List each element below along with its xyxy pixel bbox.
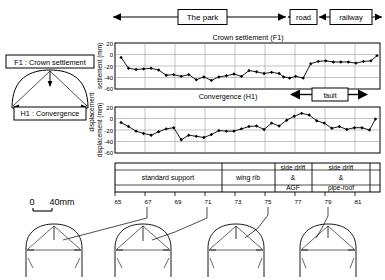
support-segment-label-3: pipe-roof — [328, 184, 354, 192]
x-axis-tick-label: 73 — [235, 198, 242, 205]
chart-convergence-ytick: -20 — [104, 128, 113, 134]
support-segment-label: side drift — [281, 164, 306, 171]
zone-railway-label: railway — [339, 13, 363, 22]
chart-convergence-ylabel: displacement (mm) — [96, 103, 104, 157]
chart-crown-title: Crown settlement (F1) — [212, 33, 283, 42]
x-axis-tick-label: 81 — [355, 198, 362, 205]
x-axis-tick-label: 69 — [175, 198, 182, 205]
support-segment-label-2: & — [291, 174, 296, 181]
support-segment-label: wing rib — [235, 174, 260, 182]
chart-crown-ytick: -40 — [104, 75, 113, 81]
fault-label: fault — [323, 92, 336, 99]
x-axis-tick-label: 79 — [325, 198, 332, 205]
chart-convergence-ytick: -60 — [104, 150, 113, 156]
scale-bar-length-label: 40mm — [49, 197, 74, 207]
chart-convergence-ytick: -40 — [104, 139, 113, 145]
legend-crown-label: F1 : Crown settlement — [14, 58, 85, 67]
chart-convergence-title: Convergence (H1) — [199, 92, 258, 101]
zone-road-label: road — [296, 13, 311, 22]
x-axis-tick-label: 67 — [145, 198, 152, 205]
figure-root: The park road railway F1 : Crown settlem… — [0, 0, 385, 280]
legend-convergence-label: H1 : Convergence — [21, 109, 80, 118]
support-segment-label: standard support — [142, 174, 195, 182]
x-axis-tick-label: 75 — [265, 198, 272, 205]
chart-crown-ytick: 20 — [106, 41, 113, 47]
chart-convergence-ytick: 20 — [106, 105, 113, 111]
zone-park-label: The park — [187, 13, 220, 22]
support-segment-label-3: AGF — [286, 184, 300, 191]
support-segment-label-2: & — [339, 174, 344, 181]
support-segment-label: side drift — [329, 164, 354, 171]
support-table: standard support wing rib side drift & A… — [115, 163, 380, 192]
x-axis-tick-label: 71 — [205, 198, 212, 205]
scale-bar-zero-label: 0 — [29, 197, 34, 207]
y-axis-outer-label: displacement — [88, 92, 96, 131]
x-axis-tick-label: 77 — [295, 198, 302, 205]
chart-crown-ytick: -60 — [104, 86, 113, 92]
chart-crown-ylabel: settlement (mm) — [96, 43, 104, 89]
chart-crown-ytick: -20 — [104, 64, 113, 70]
x-axis-tick-label: 65 — [115, 198, 122, 205]
engineering-figure: The park road railway F1 : Crown settlem… — [0, 0, 385, 280]
